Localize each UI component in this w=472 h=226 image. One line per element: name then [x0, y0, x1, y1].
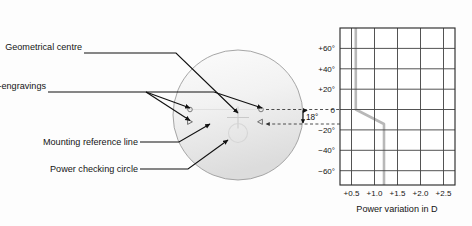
chart-y-tick-label-2: +20°	[318, 85, 335, 94]
chart-y-tick-label-3: 0	[331, 106, 336, 115]
callout-label-mounting-reference-line: Mounting reference line	[43, 137, 138, 147]
callout-label-power-checking-circle: Power checking circle	[50, 164, 138, 174]
angle-span-label: 18°	[306, 113, 318, 122]
chart-x-axis-title: Power variation in D	[356, 204, 438, 214]
chart-y-tick-label-1: +40°	[318, 65, 335, 74]
lens-power-variation-figure: Geometrical centre Micro-engravings Moun…	[0, 0, 472, 226]
chart-y-tick-label-4: −20°	[318, 126, 335, 135]
chart-x-tick-label-0: +0.5	[344, 189, 360, 198]
chart-x-tick-label-1: +1.0	[367, 189, 383, 198]
chart-x-tick-label-2: +1.5	[390, 189, 406, 198]
chart-y-tick-label-5: −40°	[318, 146, 335, 155]
chart-y-tick-label-0: +60°	[318, 44, 335, 53]
angle-span-annotation: 18°	[301, 111, 319, 124]
figure-canvas: Geometrical centre Micro-engravings Moun…	[0, 0, 472, 226]
callout-label-geometrical-centre: Geometrical centre	[5, 42, 82, 52]
chart-y-tick-label-6: −60°	[318, 167, 335, 176]
callout-label-micro-engravings: Micro-engravings	[0, 81, 46, 91]
chart-x-tick-label-4: +2.5	[436, 189, 452, 198]
chart-x-tick-label-3: +2.0	[413, 189, 429, 198]
